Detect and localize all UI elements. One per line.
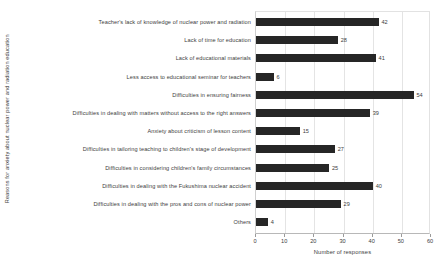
bar-row: Less access to educational seminar for t…	[0, 68, 447, 86]
category-label: Less access to educational seminar for t…	[127, 68, 251, 86]
bar	[256, 145, 335, 153]
category-label: Teacher's lack of knowledge of nuclear p…	[99, 13, 251, 31]
bar	[256, 127, 300, 135]
bar	[256, 54, 376, 62]
bar-row: Lack of time for education28	[0, 31, 447, 49]
bar-value-label: 6	[277, 68, 280, 86]
category-label: Difficulties in dealing with the Fukushi…	[102, 177, 251, 195]
bar-row: Difficulties in considering children's f…	[0, 159, 447, 177]
bar-value-label: 40	[376, 177, 382, 195]
x-tick-mark	[313, 234, 314, 237]
bar	[256, 91, 414, 99]
bar-row: Lack of educational materials41	[0, 49, 447, 67]
x-tick-label: 0	[245, 238, 265, 244]
bar	[256, 200, 341, 208]
x-tick-mark	[284, 234, 285, 237]
bar-row: Difficulties in dealing with matters wit…	[0, 104, 447, 122]
bar-chart: Reasons for anxiety about nuclear power …	[0, 0, 447, 274]
x-tick-mark	[343, 234, 344, 237]
x-tick-label: 40	[362, 238, 382, 244]
bar-value-label: 15	[303, 122, 309, 140]
category-label: Lack of educational materials	[176, 49, 251, 67]
bar	[256, 109, 370, 117]
x-tick-label: 60	[420, 238, 440, 244]
bar-value-label: 39	[373, 104, 379, 122]
bar	[256, 36, 338, 44]
x-axis-title: Number of responses	[255, 249, 430, 255]
bar	[256, 18, 379, 26]
bar-value-label: 28	[341, 31, 347, 49]
x-tick-label: 10	[274, 238, 294, 244]
x-tick-label: 50	[391, 238, 411, 244]
category-label: Difficulties in dealing with matters wit…	[73, 104, 251, 122]
category-label: Difficulties in ensuring fairness	[172, 86, 251, 104]
bar-row: Difficulties in ensuring fairness54	[0, 86, 447, 104]
x-tick-label: 30	[333, 238, 353, 244]
category-label: Difficulties in considering children's f…	[105, 159, 251, 177]
category-label: Others	[234, 213, 251, 231]
bar-value-label: 27	[338, 140, 344, 158]
bar-value-label: 54	[417, 86, 423, 104]
bar	[256, 164, 329, 172]
category-label: Lack of time for education	[184, 31, 251, 49]
bar	[256, 182, 373, 190]
bar-value-label: 25	[332, 159, 338, 177]
bar	[256, 73, 274, 81]
bar	[256, 218, 268, 226]
bar-value-label: 41	[379, 49, 385, 67]
x-tick-mark	[430, 234, 431, 237]
bar-row: Difficulties in dealing with the pros an…	[0, 195, 447, 213]
category-label: Anxiety about criticism of lesson conten…	[147, 122, 251, 140]
bar-row: Others4	[0, 213, 447, 231]
x-tick-label: 20	[303, 238, 323, 244]
bar-value-label: 4	[271, 213, 274, 231]
x-tick-mark	[255, 234, 256, 237]
category-label: Difficulties in dealing with the pros an…	[93, 195, 251, 213]
x-tick-mark	[372, 234, 373, 237]
x-tick-mark	[401, 234, 402, 237]
bar-row: Teacher's lack of knowledge of nuclear p…	[0, 13, 447, 31]
category-label: Difficulties in tailoring teaching to ch…	[83, 140, 251, 158]
bar-value-label: 29	[344, 195, 350, 213]
bar-value-label: 42	[382, 13, 388, 31]
bar-row: Difficulties in tailoring teaching to ch…	[0, 140, 447, 158]
bar-row: Difficulties in dealing with the Fukushi…	[0, 177, 447, 195]
bar-row: Anxiety about criticism of lesson conten…	[0, 122, 447, 140]
